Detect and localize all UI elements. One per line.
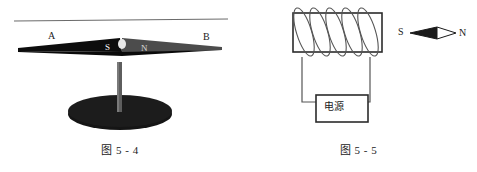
- label-south-pole-compass: S: [398, 27, 404, 37]
- label-north-pole-compass: N: [459, 28, 466, 38]
- pivot-cap: [118, 39, 126, 49]
- figure-5-5: 电源 S N 图 5 - 5: [240, 0, 477, 172]
- label-A: A: [48, 31, 55, 41]
- figure-sheet: A B S N 图 5 - 4: [0, 0, 477, 172]
- solenoid-coil-icon: [290, 6, 383, 58]
- compass-needle-south-half: [410, 27, 437, 39]
- label-south-pole-needle: S: [105, 43, 110, 52]
- label-B: B: [203, 32, 210, 42]
- label-power-source: 电源: [324, 102, 344, 112]
- caption-figure-5-4: 图 5 - 4: [0, 141, 240, 157]
- coil-clip-mask: [280, 58, 400, 66]
- caption-figure-5-5: 图 5 - 5: [240, 141, 477, 157]
- compass-needle-north-half: [437, 27, 456, 39]
- horizontal-reference-line: [14, 19, 228, 21]
- stand-post-highlight: [117, 62, 119, 112]
- figure-5-4-drawing: [0, 0, 240, 140]
- figure-5-5-drawing: [240, 0, 477, 140]
- label-north-pole-needle: N: [141, 44, 148, 53]
- figure-5-4: A B S N 图 5 - 4: [0, 0, 240, 172]
